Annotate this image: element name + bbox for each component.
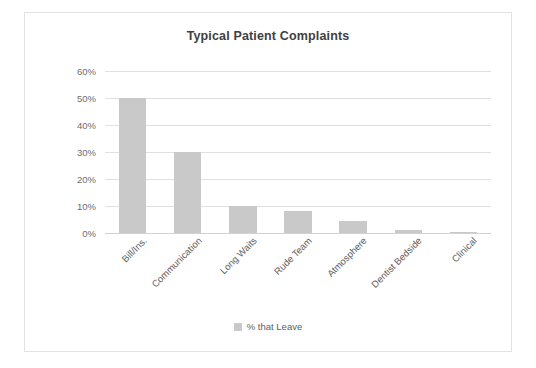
bar[interactable]: [339, 221, 367, 233]
bar-slot: [119, 71, 147, 233]
y-axis-tick-label: 20%: [77, 174, 96, 185]
y-axis-tick-label: 0%: [82, 228, 96, 239]
chart-legend: % that Leave: [25, 321, 511, 332]
bar[interactable]: [174, 152, 202, 233]
y-axis-tick-label: 60%: [77, 66, 96, 77]
x-axis-label-text: Rude Team: [272, 235, 314, 277]
bar[interactable]: [119, 98, 147, 233]
y-axis-tick-label: 10%: [77, 201, 96, 212]
x-axis-label-text: Communication: [149, 235, 203, 289]
x-axis-category-labels: Bill/Ins.CommunicationLong WaitsRude Tea…: [105, 235, 491, 313]
x-axis-label-text: Dentist Bedside: [369, 235, 424, 290]
x-axis-label-text: Bill/Ins.: [119, 235, 148, 264]
plot-area: 0%10%20%30%40%50%60%: [105, 71, 491, 233]
chart-title: Typical Patient Complaints: [25, 29, 511, 43]
bar-slot: [174, 71, 202, 233]
y-axis-tick-label: 40%: [77, 120, 96, 131]
x-axis-label-text: Atmosphere: [325, 235, 369, 279]
x-axis-label-text: Long Waits: [217, 235, 258, 276]
x-axis-label-text: Clinical: [450, 235, 479, 264]
y-axis-tick-label: 30%: [77, 147, 96, 158]
chart-frame: Typical Patient Complaints 0%10%20%30%40…: [24, 12, 512, 352]
legend-label: % that Leave: [247, 321, 302, 332]
bar[interactable]: [284, 211, 312, 233]
bar-series: [105, 71, 491, 233]
legend-swatch-icon: [234, 323, 242, 331]
y-axis-tick-label: 50%: [77, 93, 96, 104]
